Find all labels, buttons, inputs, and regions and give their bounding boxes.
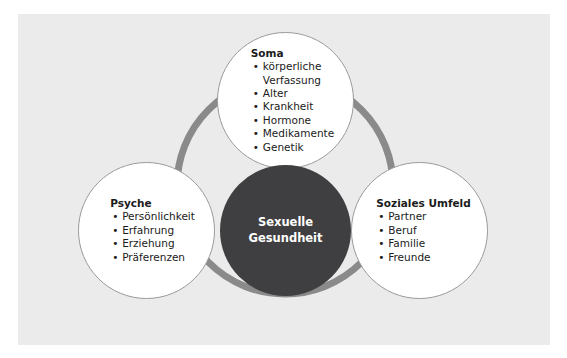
node-soziales-umfeld-content: Soziales Umfeld Partner Beruf Familie Fr… — [352, 163, 487, 298]
list-item: Erziehung — [110, 237, 195, 250]
list-item: Hormone — [251, 114, 334, 127]
list-item: Partner — [376, 210, 470, 223]
node-soma[interactable]: Soma körperliche Verfassung Alter Krankh… — [217, 32, 354, 169]
node-core-content: Sexuelle Gesundheit — [220, 165, 351, 296]
list-item: Krankheit — [251, 100, 334, 113]
node-soma-content: Soma körperliche Verfassung Alter Krankh… — [218, 33, 353, 168]
node-soziales-umfeld-title: Soziales Umfeld — [376, 197, 470, 209]
list-item: Präferenzen — [110, 251, 195, 264]
list-item: Genetik — [251, 141, 334, 154]
node-psyche-body: Psyche Persönlichkeit Erfahrung Erziehun… — [110, 197, 195, 264]
node-soma-list: körperliche Verfassung Alter Krankheit H… — [251, 60, 334, 154]
list-item: körperliche Verfassung — [251, 60, 334, 87]
node-psyche[interactable]: Psyche Persönlichkeit Erfahrung Erziehun… — [78, 162, 215, 299]
diagram-canvas: Soma körperliche Verfassung Alter Krankh… — [0, 0, 567, 358]
node-soma-title: Soma — [251, 47, 334, 59]
list-item: Medikamente — [251, 127, 334, 140]
list-item: Erfahrung — [110, 224, 195, 237]
list-item: Freunde — [376, 251, 470, 264]
core-label: Sexuelle Gesundheit — [248, 215, 322, 245]
node-soziales-umfeld[interactable]: Soziales Umfeld Partner Beruf Familie Fr… — [351, 162, 488, 299]
list-item: Familie — [376, 237, 470, 250]
list-item: Persönlichkeit — [110, 210, 195, 223]
list-item: Alter — [251, 87, 334, 100]
core-label-line2: Gesundheit — [248, 231, 322, 246]
node-psyche-title: Psyche — [110, 197, 195, 209]
node-soziales-umfeld-body: Soziales Umfeld Partner Beruf Familie Fr… — [376, 197, 470, 264]
node-psyche-list: Persönlichkeit Erfahrung Erziehung Präfe… — [110, 210, 195, 264]
node-psyche-content: Psyche Persönlichkeit Erfahrung Erziehun… — [79, 163, 214, 298]
core-label-line1: Sexuelle — [248, 215, 322, 230]
node-soma-body: Soma körperliche Verfassung Alter Krankh… — [251, 47, 334, 154]
node-soziales-umfeld-list: Partner Beruf Familie Freunde — [376, 210, 470, 264]
list-item: Beruf — [376, 224, 470, 237]
node-core-sexuelle-gesundheit[interactable]: Sexuelle Gesundheit — [220, 165, 351, 296]
